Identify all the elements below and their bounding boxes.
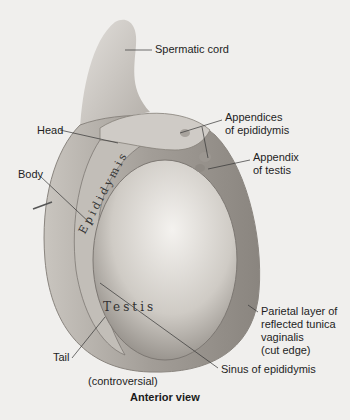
- label-body: Body: [18, 168, 43, 181]
- label-appendices-line1: Appendices: [225, 111, 283, 124]
- label-spermatic-cord: Spermatic cord: [155, 43, 229, 56]
- label-parietal-line2: reflected tunica: [261, 318, 336, 331]
- label-parietal-line1: Parietal layer of: [261, 305, 337, 318]
- anatomy-figure: Testis Epididymis Spermatic cord Appendi…: [0, 0, 350, 420]
- label-appendix-line2: of testis: [253, 164, 291, 177]
- label-head: Head: [37, 124, 63, 137]
- label-parietal-line3: vaginalis: [261, 331, 304, 344]
- view-caption: Anterior view: [130, 391, 200, 403]
- label-appendix-line1: Appendix: [253, 151, 299, 164]
- testis-organ-label: Testis: [103, 300, 156, 314]
- label-controversial: (controversial): [88, 375, 158, 388]
- label-appendices-line2: of epididymis: [225, 124, 289, 137]
- spermatic-cord-shape: [80, 20, 150, 130]
- label-parietal-line4: (cut edge): [261, 344, 311, 357]
- label-sinus: Sinus of epididymis: [221, 363, 316, 376]
- label-tail: Tail: [53, 351, 70, 364]
